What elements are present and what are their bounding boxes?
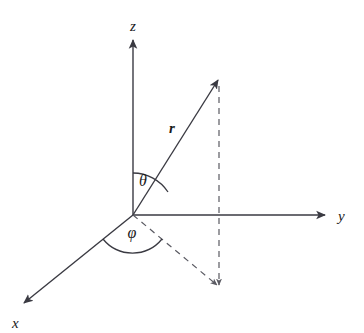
angle-phi: φ <box>103 224 162 253</box>
angle-theta: θ <box>133 172 168 192</box>
projection-xy-line <box>133 215 217 285</box>
angle-theta-label: θ <box>139 172 147 189</box>
vector-r: r <box>133 80 218 215</box>
axis-z-label: z <box>129 18 136 34</box>
axis-z: z <box>129 18 136 215</box>
diagram-canvas: z y x r θ <box>0 0 364 333</box>
axis-x-label: x <box>11 315 19 331</box>
axis-x-line <box>24 215 133 303</box>
projection-xy <box>133 215 217 285</box>
axis-y-label: y <box>336 208 345 224</box>
angle-phi-label: φ <box>128 224 137 242</box>
angle-phi-arc <box>103 239 162 253</box>
axis-x: x <box>11 215 133 331</box>
vector-r-line <box>133 80 218 215</box>
vector-r-label: r <box>169 120 175 136</box>
spherical-coordinates-figure: z y x r θ <box>0 0 364 333</box>
axis-y: y <box>133 208 345 224</box>
